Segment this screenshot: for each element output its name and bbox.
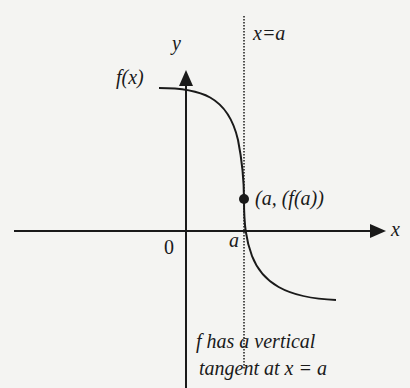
caption-line-1: f has a vertical xyxy=(196,330,316,353)
tangent-point xyxy=(239,194,249,204)
tick-label-a: a xyxy=(229,229,239,251)
vertical-tangent-diagram: y x 0 a f(x) x=a (a, (f(a)) f has a vert… xyxy=(0,0,410,388)
x-axis-label: x xyxy=(390,218,400,240)
origin-label: 0 xyxy=(164,236,174,258)
x-axis-arrow-icon xyxy=(370,224,386,238)
curve-label: f(x) xyxy=(116,66,144,89)
y-axis-arrow-icon xyxy=(179,70,193,86)
y-axis-label: y xyxy=(170,32,181,55)
vertical-line-label: x=a xyxy=(252,22,285,44)
caption-line-2: tangent at x = a xyxy=(199,357,327,380)
point-label: (a, (f(a)) xyxy=(255,187,324,210)
